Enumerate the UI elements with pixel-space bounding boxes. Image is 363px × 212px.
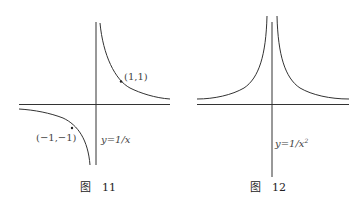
function-label-1-over-x: y=1/x [101,134,130,145]
point-label-1-1: (1,1) [124,71,148,82]
curve-right-branch [277,16,349,99]
figure-11-caption: 图 11 [80,178,116,194]
curve-positive-branch [100,23,170,99]
figure-11-plot [19,22,170,165]
point-neg1-neg1 [71,127,73,129]
figures-canvas [0,0,363,212]
figure-12-plot [197,16,349,177]
figure-12-caption: 图 12 [250,178,286,194]
function-label-base: y=1/x [275,138,304,149]
point-label-neg1-neg1: (−1,−1) [36,132,76,143]
function-label-exponent: 2 [304,137,308,144]
point-1-1 [120,80,122,82]
function-label-1-over-x-squared: y=1/x2 [275,137,308,149]
curve-left-branch [197,16,267,99]
